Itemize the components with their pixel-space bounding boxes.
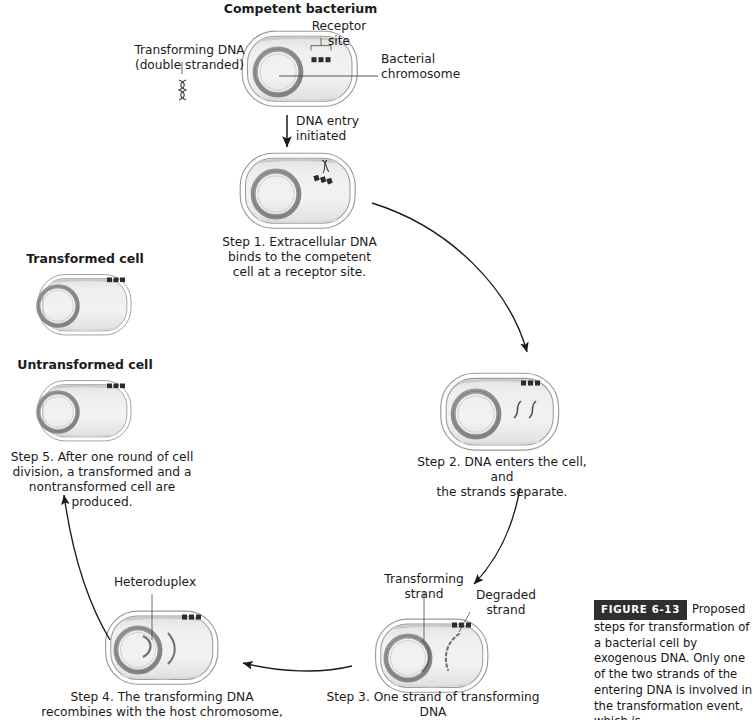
step-5-text: Step 5. After one round of cell division… [2, 450, 202, 510]
figure-caption-text: Proposed steps for transformation of a b… [594, 602, 752, 720]
label-competent-bacterium: Competent bacterium [213, 1, 388, 16]
figure-caption: FIGURE 6-13Proposed steps for transforma… [594, 600, 753, 720]
label-transforming-strand: Transforming strand [372, 572, 476, 602]
step-3-text: Step 3. One strand of transforming DNA i… [322, 690, 544, 720]
receptor-site-dots [107, 278, 125, 283]
step-1-text: Step 1. Extracellular DNA binds to the c… [208, 235, 391, 280]
label-bacterial-chromosome: Bacterial chromosome [381, 52, 501, 82]
step-4-text: Step 4. The transforming DNA recombines … [20, 690, 304, 720]
arrow-step1-to-step2 [372, 203, 527, 352]
arrow-step3-to-step4 [243, 663, 352, 671]
arrow-step2-to-step3 [474, 488, 520, 584]
figure-number-badge: FIGURE 6-13 [594, 600, 687, 620]
receptor-site-dots [312, 57, 331, 62]
label-transforming-dna: Transforming DNA (double stranded) [122, 43, 257, 73]
label-dna-entry-initiated: DNA entry initiated [296, 114, 406, 144]
label-heteroduplex: Heteroduplex [113, 575, 197, 590]
arrow-step4-to-step5 [64, 495, 110, 640]
receptor-site-dots [182, 615, 201, 620]
figure-container: Competent bacterium Receptor site Transf… [0, 0, 753, 720]
receptor-site-dots [107, 384, 125, 389]
cell-step-2 [441, 373, 559, 450]
step-2-text: Step 2. DNA enters the cell, and the str… [404, 455, 600, 500]
cell-untransformed [38, 381, 131, 441]
cell-transformed [38, 275, 131, 335]
label-receptor-site: Receptor site [289, 19, 389, 49]
label-untransformed-cell: Untransformed cell [10, 357, 160, 372]
receptor-site-dots [521, 381, 540, 386]
label-degraded-strand: Degraded strand [463, 588, 549, 618]
cell-step-4 [106, 594, 218, 684]
cell-step-1 [240, 153, 355, 228]
label-transformed-cell: Transformed cell [18, 251, 152, 266]
